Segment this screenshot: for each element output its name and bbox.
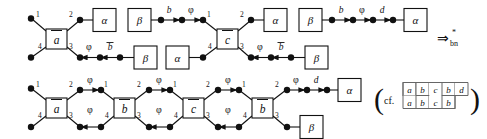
node-dot — [28, 15, 34, 21]
tile-cell: b — [446, 98, 451, 108]
gadget-a-tilde-top: a 1 2 4 3 — [28, 10, 79, 61]
gadget-label-c-tilde: c — [225, 34, 230, 46]
tile-cell: c — [434, 98, 438, 108]
port-number: 4 — [174, 111, 178, 120]
port-number: 4 — [105, 111, 109, 120]
port-number: 1 — [104, 80, 108, 89]
box-label: α — [273, 14, 279, 26]
edge-label-d: d — [314, 75, 319, 85]
box-label: α — [413, 14, 419, 26]
diagram-canvas: a 1 2 4 3 α β b φ — [0, 0, 487, 139]
port-number: 3 — [240, 42, 244, 51]
gadget-label-a-tilde: a — [54, 103, 60, 115]
gadget-a-tilde-bottom: a 1 2 4 3 — [28, 80, 79, 130]
tile-cell: d — [459, 85, 464, 95]
port-number: 3 — [69, 111, 73, 120]
edge-label-b: b — [167, 5, 172, 15]
box-label: α — [347, 84, 353, 96]
port-number: 4 — [38, 111, 42, 120]
cf-label: cf. — [384, 95, 394, 106]
port-number: 2 — [275, 80, 279, 89]
box-beta-b1: β — [300, 116, 323, 139]
edge-label-b-bar: b — [107, 42, 114, 52]
close-paren: ) — [470, 82, 480, 116]
figure-root: a 1 2 4 3 α β b φ — [0, 0, 487, 139]
open-paren: ( — [374, 82, 384, 116]
port-number: 2 — [137, 80, 141, 89]
box-beta-t1: β — [128, 9, 151, 32]
box-alpha-t1: α — [93, 9, 116, 32]
box-alpha-t4: α — [404, 9, 427, 32]
port-number: 1 — [173, 80, 177, 89]
port-number: 1 — [242, 80, 246, 89]
port-number: 2 — [206, 80, 210, 89]
tile-cell: b — [420, 98, 425, 108]
rewrite-arrow-symbol: ⇒ — [437, 31, 449, 46]
box-label: β — [313, 52, 320, 64]
port-number: 4 — [243, 111, 247, 120]
gadget-label-a-tilde: a — [54, 34, 60, 46]
box-label: β — [142, 52, 149, 64]
port-number: 2 — [69, 80, 73, 89]
box-label: β — [307, 14, 314, 26]
port-number: 1 — [36, 10, 40, 19]
gadget-b-tilde-bottom-2: b 1 2 4 3 — [239, 80, 286, 127]
port-number: 3 — [275, 111, 279, 120]
edge-label-phi: φ — [257, 41, 263, 52]
node-dot — [28, 85, 34, 91]
edge-label-phi: φ — [156, 74, 162, 85]
node-dot — [28, 54, 34, 60]
top-row: a 1 2 4 3 α β b φ — [28, 4, 427, 69]
box-label: α — [175, 52, 181, 64]
box-beta-t3: β — [299, 9, 322, 32]
rewrite-arrow-superscript: * — [452, 28, 456, 37]
box-label: β — [308, 121, 315, 133]
tile-cell: a — [407, 98, 412, 108]
svg-text:b: b — [108, 42, 113, 52]
gadget-label-c-tilde: c — [191, 103, 196, 115]
tile-cell: b — [446, 85, 451, 95]
tiling-diagram: a b c b d a b c b — [403, 83, 468, 109]
svg-text:b: b — [279, 42, 284, 52]
edge-label-phi: φ — [86, 41, 92, 52]
edge-label-phi: φ — [87, 104, 93, 115]
box-label: β — [136, 14, 143, 26]
tile-cell: a — [407, 85, 412, 95]
port-number: 4 — [38, 42, 42, 51]
edge-label-phi: φ — [359, 4, 365, 15]
edge-label-b-bar: b — [278, 42, 285, 52]
box-label: α — [102, 14, 108, 26]
box-alpha-b1: α — [338, 79, 361, 102]
node-dot — [28, 124, 34, 130]
cf-note: ( cf. a b c b d a b c b — [374, 82, 480, 116]
port-number: 2 — [240, 10, 244, 19]
edge-label-phi: φ — [225, 104, 231, 115]
box-beta-t4: β — [305, 46, 328, 69]
edge-label-phi: φ — [293, 74, 299, 85]
edge-label-b: b — [339, 5, 344, 15]
port-number: 4 — [208, 42, 212, 51]
rewrite-arrow: ⇒ * bn — [437, 28, 458, 48]
box-beta-t2: β — [134, 46, 157, 69]
port-number: 3 — [206, 111, 210, 120]
edge-label-phi: φ — [87, 74, 93, 85]
tile-cell: c — [434, 85, 438, 95]
gadget-c-tilde-top: c 1 2 4 3 — [203, 10, 250, 58]
edge-label-phi: φ — [156, 104, 162, 115]
port-number: 1 — [207, 10, 211, 19]
edge-label-phi: φ — [225, 74, 231, 85]
box-alpha-t3: α — [264, 9, 287, 32]
rewrite-arrow-subscript: bn — [450, 39, 458, 48]
edge-label-phi: φ — [188, 4, 194, 15]
gadget-label-b-tilde: b — [122, 103, 128, 115]
port-number: 1 — [36, 80, 40, 89]
port-number: 3 — [69, 42, 73, 51]
tile-cell: b — [420, 85, 425, 95]
gadget-label-b-tilde: b — [260, 103, 266, 115]
bottom-row: a 1 2 4 3 φ φ b 1 2 4 3 — [28, 74, 361, 139]
box-alpha-t2: α — [166, 46, 189, 69]
edge-label-d: d — [380, 5, 385, 15]
gadget-c-tilde-bottom: c 1 2 4 3 — [170, 80, 217, 127]
port-number: 3 — [137, 111, 141, 120]
port-number: 2 — [69, 10, 73, 19]
